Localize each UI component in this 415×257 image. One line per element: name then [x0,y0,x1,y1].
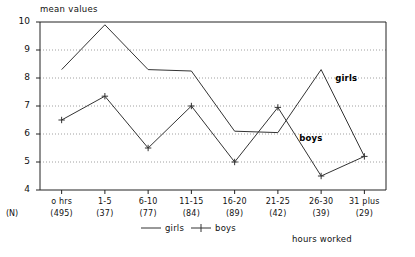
n-row-label: (N) [6,209,18,218]
y-tick-label: 5 [14,157,30,166]
y-tick-label: 4 [14,185,30,194]
y-tick-label: 6 [14,129,30,138]
legend-line-icon-girls [140,223,162,233]
n-count-label: (29) [334,209,394,218]
legend-label-boys: boys [215,223,236,233]
x-axis-title: hours worked [292,234,352,244]
y-tick-label: 7 [14,101,30,110]
legend-entry-boys: boys [190,223,236,233]
y-tick-label: 8 [14,73,30,82]
y-tick-marks [36,22,40,190]
legend-entry-girls: girls [140,223,184,233]
series-annotation-boys: boys [299,133,322,143]
plot-area [0,0,415,257]
y-tick-label: 10 [14,17,30,26]
y-tick-label: 9 [14,45,30,54]
x-tick-label: 31 plus [334,197,394,206]
chart-figure: mean values 45678910 o hrs1-56-1011-1516… [0,0,415,257]
x-tick-marks [62,190,365,194]
chart-legend: girls boys [140,223,236,233]
legend-line-plus-icon-boys [190,223,212,233]
legend-label-girls: girls [165,223,184,233]
grid-lines [40,50,386,162]
series-annotation-girls: girls [335,73,357,83]
